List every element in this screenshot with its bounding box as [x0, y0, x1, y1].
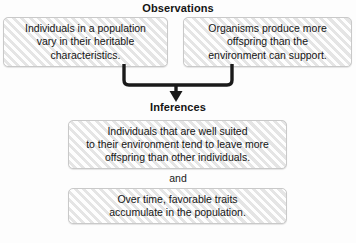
observation-box-1: Individuals in a population vary in thei…	[3, 17, 168, 67]
inference-box-1-text: Individuals that are well suited to thei…	[69, 125, 286, 165]
inference-box-2-text: Over time, favorable traits accumulate i…	[69, 193, 286, 219]
observation-box-2: Organisms produce more offspring than th…	[183, 17, 352, 67]
observations-heading: Observations	[0, 2, 356, 15]
natural-selection-diagram: Observations Individuals in a population…	[0, 0, 356, 243]
observation-box-2-text: Organisms produce more offspring than th…	[184, 22, 351, 62]
inference-box-1: Individuals that are well suited to thei…	[68, 120, 287, 169]
observation-box-1-text: Individuals in a population vary in thei…	[4, 22, 167, 62]
merge-arrow-down-icon	[110, 62, 246, 104]
conjunction-and-label: and	[0, 172, 356, 184]
inferences-heading: Inferences	[0, 101, 356, 114]
inference-box-2: Over time, favorable traits accumulate i…	[68, 188, 287, 224]
